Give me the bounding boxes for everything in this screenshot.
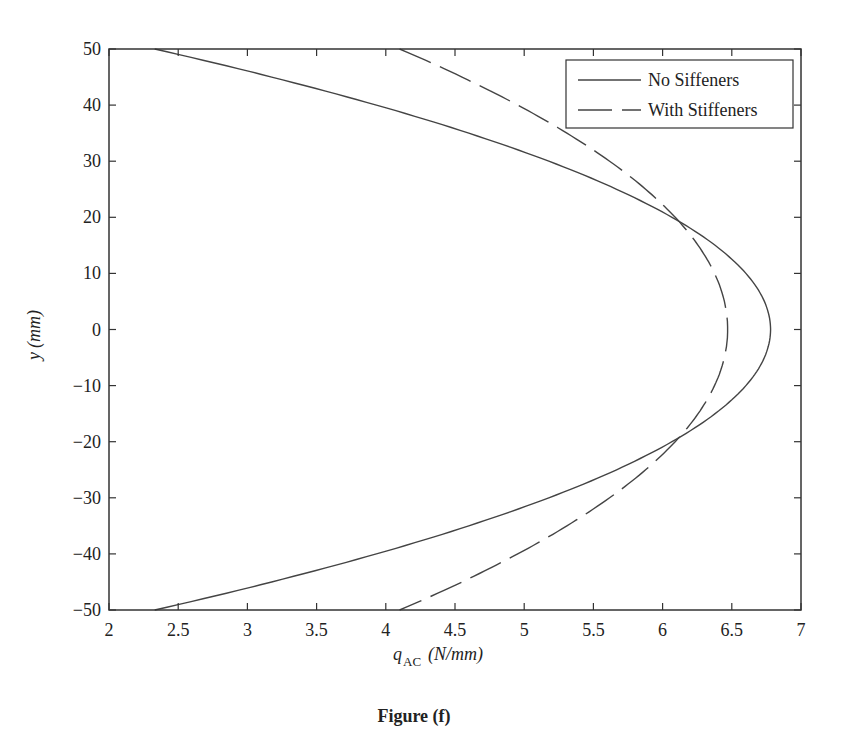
x-axis-ticks: 22.533.544.555.566.57 — [105, 49, 806, 640]
y-tick-label: 20 — [83, 207, 101, 227]
x-tick-label: 6.5 — [721, 620, 744, 640]
series-no-stiffeners — [155, 49, 771, 610]
x-axis-label-sub: AC — [403, 654, 421, 669]
y-tick-label: −30 — [73, 488, 101, 508]
y-axis-label-unit: (mm) — [24, 310, 45, 348]
x-tick-label: 2.5 — [167, 620, 190, 640]
legend-label-with-stiffeners: With Stiffeners — [648, 100, 757, 120]
chart: 22.533.544.555.566.57 −50−40−30−20−10010… — [0, 0, 849, 733]
y-axis-label: y (mm) — [24, 310, 45, 362]
x-tick-label: 3 — [243, 620, 252, 640]
x-axis-label: q AC (N/mm) — [393, 644, 483, 669]
x-axis-label-main: q — [393, 644, 402, 664]
x-tick-label: 5 — [520, 620, 529, 640]
y-tick-label: 40 — [83, 95, 101, 115]
x-axis-label-unit: (N/mm) — [428, 644, 483, 665]
y-tick-label: −20 — [73, 432, 101, 452]
x-tick-label: 2 — [105, 620, 114, 640]
y-tick-label: −10 — [73, 376, 101, 396]
y-tick-label: −50 — [73, 600, 101, 620]
y-tick-label: 50 — [83, 39, 101, 59]
plot-area-frame — [109, 49, 801, 610]
plot-curves — [155, 49, 771, 610]
y-tick-label: 10 — [83, 263, 101, 283]
x-tick-label: 3.5 — [305, 620, 328, 640]
x-tick-label: 7 — [797, 620, 806, 640]
x-tick-label: 4 — [381, 620, 390, 640]
y-tick-label: 30 — [83, 151, 101, 171]
y-tick-label: 0 — [92, 320, 101, 340]
x-tick-label: 6 — [658, 620, 667, 640]
legend-label-no-stiffeners: No Siffeners — [648, 70, 739, 90]
y-axis-label-main: y — [24, 352, 44, 362]
figure-caption: Figure (f) — [377, 706, 450, 727]
x-tick-label: 5.5 — [582, 620, 605, 640]
x-tick-label: 4.5 — [444, 620, 467, 640]
y-tick-label: −40 — [73, 544, 101, 564]
legend: No Siffeners With Stiffeners — [566, 60, 793, 128]
series-with-stiffeners — [400, 49, 728, 610]
